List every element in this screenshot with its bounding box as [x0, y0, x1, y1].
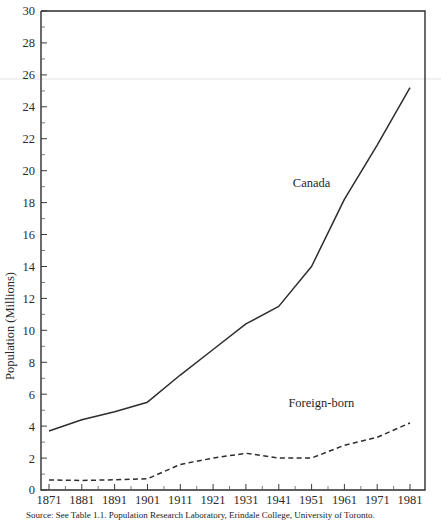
x-tick-label: 1941	[266, 493, 291, 507]
plot-frame	[41, 11, 425, 490]
y-tick-labels: 0 2 4 6 8 10 12 14 16 18 20 22 24 26 28 …	[23, 4, 36, 497]
y-tick-label: 18	[23, 196, 36, 210]
x-tick-label: 1901	[135, 493, 160, 507]
x-tick-label: 1871	[37, 493, 62, 507]
x-tick-label: 1911	[168, 493, 193, 507]
y-axis-title: Population (Millions)	[3, 272, 17, 380]
y-tick-label: 30	[23, 4, 36, 18]
x-tick-label: 1951	[299, 493, 324, 507]
source-caption: Source: See Table 1.1. Population Resear…	[0, 511, 441, 525]
series-line-canada	[49, 88, 410, 431]
x-tick-label: 1981	[398, 493, 423, 507]
y-tick-label: 16	[23, 228, 36, 242]
y-tick-label: 8	[29, 356, 35, 370]
population-line-chart: 0 2 4 6 8 10 12 14 16 18 20 22 24 26 28 …	[0, 0, 441, 525]
series-line-foreign-born	[49, 423, 410, 480]
x-tick-label: 1891	[102, 493, 127, 507]
y-tick-label: 26	[23, 68, 36, 82]
y-tick-label: 0	[29, 483, 35, 497]
y-tick-label: 28	[23, 36, 36, 50]
y-tick-label: 4	[29, 420, 36, 434]
y-tick-label: 10	[23, 324, 36, 338]
y-tick-label: 14	[23, 260, 36, 274]
x-tick-label: 1881	[69, 493, 94, 507]
x-tick-label: 1971	[365, 493, 390, 507]
series-label-foreign-born: Foreign-born	[288, 396, 355, 410]
x-tick-label: 1921	[201, 493, 226, 507]
y-tick-label: 12	[23, 292, 36, 306]
y-tick-label: 24	[23, 100, 36, 114]
series-label-canada: Canada	[293, 176, 331, 190]
y-tick-label: 2	[29, 452, 35, 466]
x-tick-labels: 1871 1881 1891 1901 1911 1921 1931 1941 …	[37, 493, 423, 507]
chart-svg: 0 2 4 6 8 10 12 14 16 18 20 22 24 26 28 …	[0, 0, 441, 525]
x-tick-label: 1931	[233, 493, 258, 507]
x-tick-label: 1961	[332, 493, 357, 507]
y-tick-label: 6	[29, 388, 35, 402]
y-tick-label: 20	[23, 164, 36, 178]
y-tick-label: 22	[23, 132, 36, 146]
source-caption-text: Source: See Table 1.1. Population Resear…	[26, 511, 375, 520]
